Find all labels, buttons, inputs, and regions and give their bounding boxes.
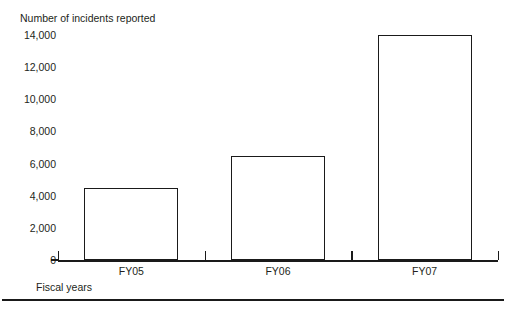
bar-fy06 [231,156,325,260]
y-axis-tick-mark [51,259,58,260]
footer-divider [2,299,504,301]
x-axis-tick-mark [205,251,206,260]
bar-fy07 [378,35,472,260]
x-axis-tick-label-fy07: FY07 [412,265,437,277]
x-axis-tick-mark [351,251,352,260]
x-axis-tick-mark [58,251,59,260]
y-axis-tick-label: 0 [2,255,56,266]
x-axis-line [58,260,498,262]
y-axis-tick-label: 8,000 [2,126,56,137]
plot-area [58,35,498,260]
x-axis-tick-label-fy05: FY05 [119,265,144,277]
y-axis-tick-labels: 02,0004,0006,0008,00010,00012,00014,000 [0,0,56,312]
x-axis-tick-mark [498,251,499,260]
y-axis-tick-label: 4,000 [2,190,56,201]
bar-chart: Number of incidents reported 02,0004,000… [0,0,506,312]
y-axis-tick-label: 12,000 [2,62,56,73]
x-axis-tick-label-fy06: FY06 [265,265,290,277]
y-axis-tick-label: 6,000 [2,158,56,169]
y-axis-tick-label: 10,000 [2,94,56,105]
y-axis-tick-label: 2,000 [2,222,56,233]
x-axis-title: Fiscal years [36,281,92,293]
bar-fy05 [84,188,178,260]
y-axis-tick-label: 14,000 [2,30,56,41]
